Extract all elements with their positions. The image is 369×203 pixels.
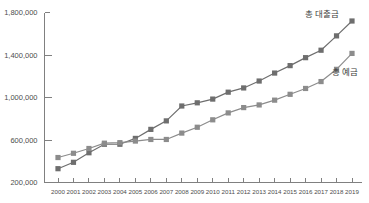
- data-point-marker: [272, 70, 277, 75]
- data-point-marker: [349, 18, 354, 23]
- y-axis-tick-label: 1,800,000: [4, 8, 37, 17]
- data-point-marker: [303, 55, 308, 60]
- series-deposits: [55, 51, 354, 160]
- data-point-marker: [210, 96, 215, 101]
- data-point-marker: [55, 155, 60, 160]
- x-axis-tick-label: 2002: [82, 188, 96, 195]
- series-label-loans: 총 대출금: [305, 9, 339, 19]
- x-axis-tick-label: 2011: [222, 188, 236, 195]
- data-point-marker: [195, 125, 200, 130]
- x-axis-tick-label: 2004: [113, 188, 127, 195]
- x-axis-tick-label: 2010: [206, 188, 220, 195]
- data-point-marker: [334, 33, 339, 38]
- data-point-marker: [148, 127, 153, 132]
- x-axis-labels: 2000200120022003200420052006200720082009…: [51, 188, 359, 195]
- data-point-marker: [318, 79, 323, 84]
- series-label-deposits: 총 예금: [332, 67, 358, 77]
- data-point-marker: [55, 166, 60, 171]
- x-axis-tick-label: 2015: [283, 188, 297, 195]
- data-point-marker: [164, 118, 169, 123]
- y-axis-labels: 200,000600,0001,000,0001,400,0001,800,00…: [4, 8, 37, 187]
- data-point-marker: [179, 103, 184, 108]
- x-axis-tick-label: 2008: [175, 188, 189, 195]
- data-point-marker: [210, 117, 215, 122]
- data-point-marker: [226, 90, 231, 95]
- data-point-marker: [133, 138, 138, 143]
- data-point-marker: [86, 146, 91, 151]
- x-axis-tick-label: 2003: [98, 188, 112, 195]
- x-axis-tick-label: 2000: [51, 188, 65, 195]
- data-point-marker: [349, 51, 354, 56]
- data-point-marker: [288, 63, 293, 68]
- x-axis-tick-label: 2017: [314, 188, 328, 195]
- data-point-marker: [117, 140, 122, 145]
- x-axis-tick-label: 2006: [144, 188, 158, 195]
- data-point-marker: [241, 85, 246, 90]
- x-axis-tick-label: 2001: [67, 188, 81, 195]
- x-axis-tick-label: 2014: [268, 188, 282, 195]
- x-axis-tick-label: 2013: [252, 188, 266, 195]
- x-axis-tick-label: 2009: [190, 188, 204, 195]
- series-loans: [55, 18, 354, 171]
- data-point-marker: [241, 105, 246, 110]
- x-axis-tick-label: 2016: [299, 188, 313, 195]
- data-point-marker: [71, 160, 76, 165]
- data-series: [55, 18, 354, 171]
- data-point-marker: [226, 110, 231, 115]
- y-axis-ticks: [45, 55, 52, 140]
- x-axis-tick-label: 2019: [345, 188, 359, 195]
- chart-container: 200,000600,0001,000,0001,400,0001,800,00…: [0, 0, 369, 203]
- data-point-marker: [257, 102, 262, 107]
- data-point-marker: [179, 130, 184, 135]
- data-point-marker: [148, 137, 153, 142]
- data-point-marker: [288, 92, 293, 97]
- data-point-marker: [164, 137, 169, 142]
- x-axis-tick-label: 2005: [128, 188, 142, 195]
- x-axis-tick-label: 2018: [330, 188, 344, 195]
- data-point-marker: [272, 98, 277, 103]
- x-axis-tick-label: 2012: [237, 188, 251, 195]
- y-axis-tick-label: 200,000: [10, 178, 37, 187]
- y-axis-tick-label: 1,400,000: [4, 51, 37, 60]
- y-axis-tick-label: 1,000,000: [4, 93, 37, 102]
- y-axis-tick-label: 600,000: [10, 136, 37, 145]
- data-point-marker: [102, 141, 107, 146]
- line-chart: 200,000600,0001,000,0001,400,0001,800,00…: [0, 0, 369, 203]
- axis-lines: [45, 13, 363, 183]
- x-axis-tick-label: 2007: [159, 188, 173, 195]
- data-point-marker: [195, 100, 200, 105]
- data-point-marker: [257, 78, 262, 83]
- x-axis-ticks: [58, 178, 352, 183]
- data-point-marker: [71, 151, 76, 156]
- axes: [45, 13, 363, 183]
- data-point-marker: [303, 86, 308, 91]
- data-point-marker: [318, 48, 323, 53]
